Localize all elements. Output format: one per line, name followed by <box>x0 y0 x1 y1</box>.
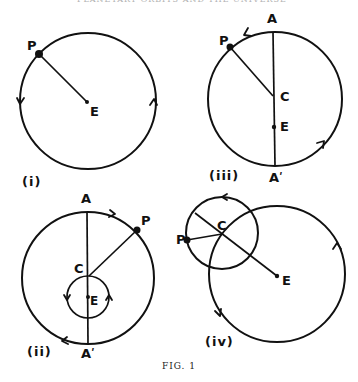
panel-label-iii: (iii) <box>209 168 239 183</box>
diameter-line-aa <box>87 212 88 344</box>
panel-iv: P C E (iv) <box>176 194 345 349</box>
panel-label-iv: (iv) <box>205 334 234 349</box>
label-p: P <box>27 38 37 53</box>
arrow-left-icon <box>244 28 251 36</box>
label-p: P <box>176 232 186 247</box>
point-p-dot <box>134 227 141 234</box>
label-e: E <box>282 273 291 288</box>
arrow-right-icon <box>109 210 115 217</box>
label-a-prime: Aʹ <box>269 170 283 185</box>
label-e: E <box>280 119 289 134</box>
label-c: C <box>280 89 290 104</box>
figure-1: P E (i) A P C E Aʹ (iii) A P C <box>0 0 358 382</box>
arrow-down-icon <box>215 309 221 316</box>
arrow-up-icon <box>333 243 341 249</box>
panel-ii: A P C E Aʹ (ii) <box>22 191 154 361</box>
radius-line-pc <box>230 47 273 96</box>
panel-label-ii: (ii) <box>27 344 52 359</box>
panel-iii: A P C E Aʹ (iii) <box>208 11 342 185</box>
label-a: A <box>267 11 277 26</box>
label-p: P <box>141 213 151 228</box>
label-e: E <box>90 294 98 308</box>
label-p: P <box>219 33 229 48</box>
diameter-line-aa <box>273 32 275 166</box>
label-a: A <box>81 191 91 206</box>
label-e: E <box>90 104 99 119</box>
figure-caption: FIG. 1 <box>0 361 358 371</box>
panel-label-i: (i) <box>22 174 41 189</box>
point-e-dot <box>272 125 276 129</box>
radius-line-pe <box>39 54 87 102</box>
point-e-dot <box>85 100 89 104</box>
radius-line-cp <box>187 234 222 240</box>
point-e-dot <box>275 274 279 278</box>
panel-i: P E (i) <box>17 33 157 189</box>
label-c: C <box>74 261 84 276</box>
label-c: C <box>217 218 227 233</box>
radius-line-cp <box>89 230 137 276</box>
label-a-prime: Aʹ <box>81 346 95 361</box>
